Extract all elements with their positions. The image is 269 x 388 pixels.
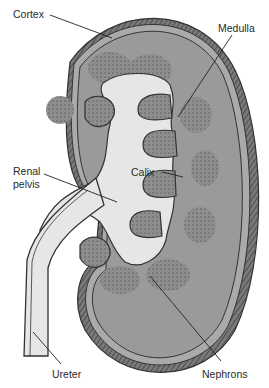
label-ureter: Ureter xyxy=(52,368,81,380)
label-renal-pelvis-line2: pelvis xyxy=(13,178,40,190)
label-calix: Calix xyxy=(131,166,154,178)
label-renal-pelvis-line1: Renal xyxy=(13,165,40,177)
label-cortex: Cortex xyxy=(13,8,44,20)
label-nephrons: Nephrons xyxy=(202,368,248,380)
kidney-diagram xyxy=(0,0,269,388)
label-medulla: Medulla xyxy=(218,22,255,34)
